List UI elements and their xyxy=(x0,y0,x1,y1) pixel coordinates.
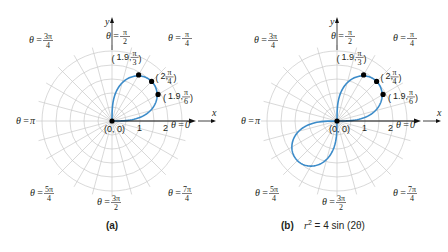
origin-point xyxy=(334,118,339,123)
fraction-numerator: π xyxy=(410,30,414,39)
polar-plots-svg: xy(0, 0)12(1.9,π3)(2,π4)(1.9,π6)θ = 0θ =… xyxy=(0,0,448,252)
y-axis-arrow-icon xyxy=(335,17,339,23)
fraction-denominator: 2 xyxy=(123,37,127,46)
fraction-denominator: 2 xyxy=(348,37,352,46)
point-label-1: (2,π4) xyxy=(156,68,177,86)
origin-label: (0, 0) xyxy=(104,124,125,134)
angle-label-value: π xyxy=(30,115,36,126)
caption-a: (a) xyxy=(106,220,118,231)
angle-label-theta-0: θ = 0 xyxy=(171,119,190,130)
paren-left: ( xyxy=(388,93,391,103)
tick-label-1: 1 xyxy=(137,123,142,133)
point-r-value: 1.9, xyxy=(117,52,132,62)
caption-b: (b) xyxy=(281,220,294,231)
angle-label-prefix: θ = xyxy=(393,32,406,43)
point-label-1: (2,π4) xyxy=(381,68,402,86)
fraction-denominator: 6 xyxy=(184,97,188,106)
fraction-denominator: 2 xyxy=(339,203,343,212)
angle-label-theta-pi: θ = π xyxy=(241,115,261,126)
curve-point xyxy=(149,79,154,84)
angle-label-theta-pi-4: θ = π4 xyxy=(168,30,192,48)
angle-label-theta-0: θ = 0 xyxy=(396,119,415,130)
paren-left: ( xyxy=(381,73,384,83)
angle-label-theta-pi-2: θ = π2 xyxy=(331,28,355,46)
angle-label-theta-pi-2: θ = π2 xyxy=(106,28,130,46)
equation-label: r2 = 4 sin (2θ) xyxy=(304,219,365,231)
paren-right: ) xyxy=(190,93,193,103)
fraction-denominator: 4 xyxy=(47,194,51,203)
x-axis-arrow-icon xyxy=(211,119,216,123)
angle-label-theta-3pi-4: θ = 3π4 xyxy=(29,32,53,50)
grid-spoke xyxy=(39,101,112,121)
fraction-denominator: 4 xyxy=(168,77,172,86)
curve-point xyxy=(155,92,160,97)
polar-axis-arrow-icon xyxy=(189,119,196,124)
fraction-numerator: π xyxy=(358,49,362,58)
angle-label-theta-5pi-4: θ = 5π4 xyxy=(255,185,279,203)
angle-label-value: 0 xyxy=(410,119,415,130)
fraction-denominator: 3 xyxy=(358,58,362,67)
polar-axis-arrow-icon xyxy=(414,119,421,124)
tick-label-2: 2 xyxy=(163,123,168,133)
origin-point xyxy=(109,118,114,123)
curve-point xyxy=(136,72,141,77)
fraction-numerator: 3π xyxy=(269,32,277,41)
fraction-numerator: π xyxy=(409,88,413,97)
y-axis-arrow-icon xyxy=(110,17,114,23)
angle-label-prefix: θ = xyxy=(16,115,29,126)
angle-label-theta-3pi-2: θ = 3π2 xyxy=(322,194,346,212)
paren-right: ) xyxy=(139,54,142,64)
fraction-numerator: 7π xyxy=(408,185,416,194)
angle-label-prefix: θ = xyxy=(106,30,119,41)
tick-label-1: 1 xyxy=(362,123,367,133)
fraction-denominator: 4 xyxy=(393,77,397,86)
angle-label-theta-7pi-4: θ = 7π4 xyxy=(168,185,192,203)
angle-label-prefix: θ = xyxy=(168,187,181,198)
grid-spoke xyxy=(264,101,337,121)
paren-right: ) xyxy=(415,93,418,103)
x-axis-arrow-icon xyxy=(436,119,441,123)
fraction-denominator: 6 xyxy=(409,97,413,106)
fraction-numerator: 3π xyxy=(112,194,120,203)
point-r-value: 1.9, xyxy=(342,52,357,62)
angle-label-theta-3pi-4: θ = 3π4 xyxy=(254,32,278,50)
angle-label-theta-3pi-2: θ = 3π2 xyxy=(97,194,121,212)
point-r-value: 1.9, xyxy=(393,91,408,101)
y-axis-label: y xyxy=(329,16,335,27)
y-axis-label: y xyxy=(104,16,110,27)
origin-label: (0, 0) xyxy=(329,124,350,134)
fraction-numerator: π xyxy=(133,49,137,58)
grid-spoke xyxy=(317,48,337,121)
curve-point xyxy=(380,92,385,97)
fraction-denominator: 3 xyxy=(133,58,137,67)
polar-lemniscate-figure: xy(0, 0)12(1.9,π3)(2,π4)(1.9,π6)θ = 0θ =… xyxy=(0,0,448,252)
fraction-denominator: 4 xyxy=(410,194,414,203)
angle-label-prefix: θ = xyxy=(97,196,110,207)
fraction-numerator: 5π xyxy=(270,185,278,194)
grid-spoke xyxy=(92,48,112,121)
curve-point xyxy=(361,72,366,77)
angle-label-prefix: θ = xyxy=(322,196,335,207)
point-label-2: (1.9,π6) xyxy=(388,88,418,106)
fraction-denominator: 4 xyxy=(410,39,414,48)
curve-point xyxy=(374,79,379,84)
panel-a: xy(0, 0)12(1.9,π3)(2,π4)(1.9,π6)θ = 0θ =… xyxy=(16,16,217,231)
point-label-2: (1.9,π6) xyxy=(163,88,193,106)
angle-label-value: 0 xyxy=(185,119,190,130)
point-label-0: (1.9,π3) xyxy=(112,49,142,67)
fraction-denominator: 4 xyxy=(271,41,275,50)
fraction-denominator: 4 xyxy=(185,194,189,203)
angle-label-theta-5pi-4: θ = 5π4 xyxy=(30,185,54,203)
angle-label-prefix: θ = xyxy=(29,34,42,45)
point-r-value: 1.9, xyxy=(168,91,183,101)
angle-label-prefix: θ = xyxy=(254,34,267,45)
angle-label-prefix: θ = xyxy=(255,187,268,198)
x-axis-label: x xyxy=(211,107,217,118)
fraction-numerator: 5π xyxy=(45,185,53,194)
angle-label-value: π xyxy=(255,115,261,126)
angle-label-prefix: θ = xyxy=(241,115,254,126)
fraction-numerator: π xyxy=(348,28,352,37)
grid-spoke xyxy=(39,121,112,141)
fraction-numerator: π xyxy=(123,28,127,37)
angle-label-theta-7pi-4: θ = 7π4 xyxy=(393,185,417,203)
